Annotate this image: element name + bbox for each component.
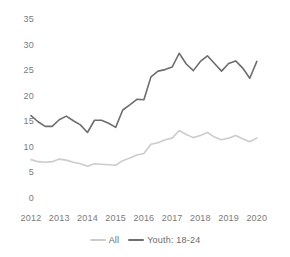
legend-label-youth: Youth: 18-24 <box>147 235 200 245</box>
series-paths <box>31 53 257 166</box>
x-tick-label: 2018 <box>185 213 215 223</box>
x-tick-label: 2014 <box>72 213 102 223</box>
x-tick-label: 2020 <box>242 213 272 223</box>
x-tick-label: 2012 <box>16 213 46 223</box>
y-tick-label: 10 <box>8 142 34 152</box>
legend-item-youth[interactable]: Youth: 18-24 <box>128 235 200 245</box>
legend-label-all: All <box>109 235 120 245</box>
series-line-youth <box>31 53 257 132</box>
legend-swatch-youth <box>128 239 144 241</box>
y-tick-label: 20 <box>8 91 34 101</box>
legend-item-all[interactable]: All <box>90 235 120 245</box>
legend-swatch-all <box>90 239 106 241</box>
series-line-all <box>31 130 257 166</box>
y-tick-label: 5 <box>8 167 34 177</box>
y-tick-label: 35 <box>8 14 34 24</box>
x-tick-label: 2016 <box>129 213 159 223</box>
x-tick-label: 2015 <box>101 213 131 223</box>
x-tick-label: 2017 <box>157 213 187 223</box>
x-tick-label: 2019 <box>214 213 244 223</box>
line-chart: 05101520253035 2012201320142015201620172… <box>0 0 290 257</box>
y-tick-label: 30 <box>8 40 34 50</box>
y-tick-label: 15 <box>8 116 34 126</box>
y-tick-label: 0 <box>8 193 34 203</box>
x-tick-label: 2013 <box>44 213 74 223</box>
chart-legend: All Youth: 18-24 <box>0 235 290 245</box>
y-tick-label: 25 <box>8 65 34 75</box>
